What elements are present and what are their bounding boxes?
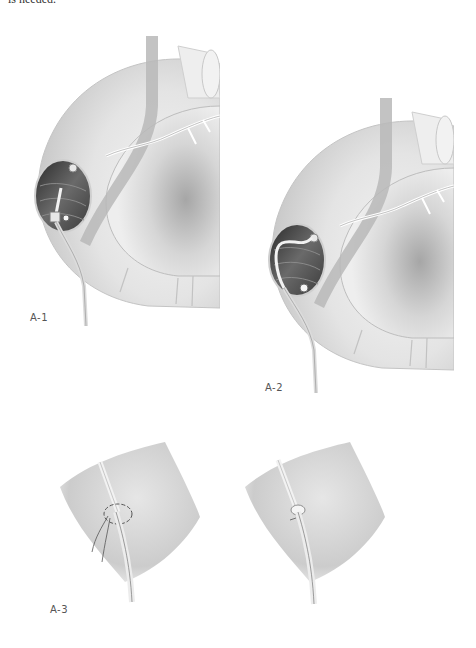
figure-label-a1: A-1 — [30, 312, 48, 323]
colon-illustration-a2 — [262, 98, 454, 393]
figure-label-a3: A-3 — [50, 604, 68, 615]
colon-illustration-a1 — [28, 36, 220, 326]
figure-a2 — [262, 98, 454, 393]
figure-label-a2: A-2 — [265, 382, 283, 393]
clipped-body-text: is needed. — [8, 0, 56, 7]
figure-a1 — [28, 36, 220, 326]
bowel-wall-suture-tied — [240, 432, 400, 612]
figure-a3-suture-loose — [50, 432, 210, 612]
figure-a3-suture-tied — [240, 432, 400, 612]
bowel-wall-suture-loose — [50, 432, 210, 612]
